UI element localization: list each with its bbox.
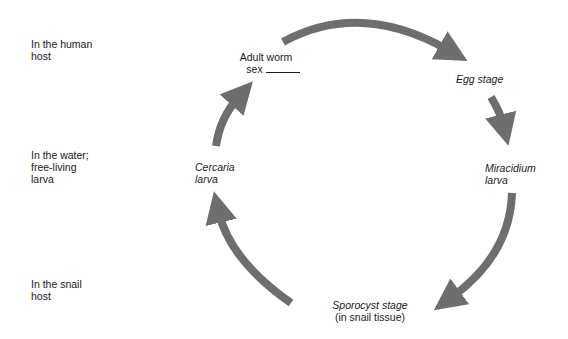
arrow-adult-to-egg: [283, 23, 448, 50]
arrow-sporocyst-to-cercaria: [219, 213, 291, 303]
arrow-miracidium-to-sporocyst: [452, 193, 512, 297]
life-cycle-arrows: [0, 0, 568, 339]
arrow-egg-to-miracidium: [491, 97, 503, 124]
arrow-cercaria-to-adult: [216, 98, 238, 146]
